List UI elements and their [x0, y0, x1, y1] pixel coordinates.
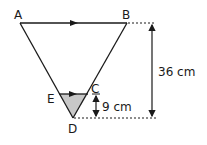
label-b: B [122, 8, 130, 22]
label-9cm: 9 cm [102, 100, 132, 114]
similar-triangles-diagram: A B C D E 36 cm 9 cm [0, 0, 207, 145]
label-a: A [14, 8, 23, 22]
label-36cm: 36 cm [158, 65, 195, 79]
shaded-triangle-ecd [59, 94, 88, 118]
label-c: C [91, 82, 99, 96]
label-d: D [68, 122, 77, 136]
label-e: E [47, 92, 55, 106]
parallel-mark-ab-icon [70, 20, 78, 26]
